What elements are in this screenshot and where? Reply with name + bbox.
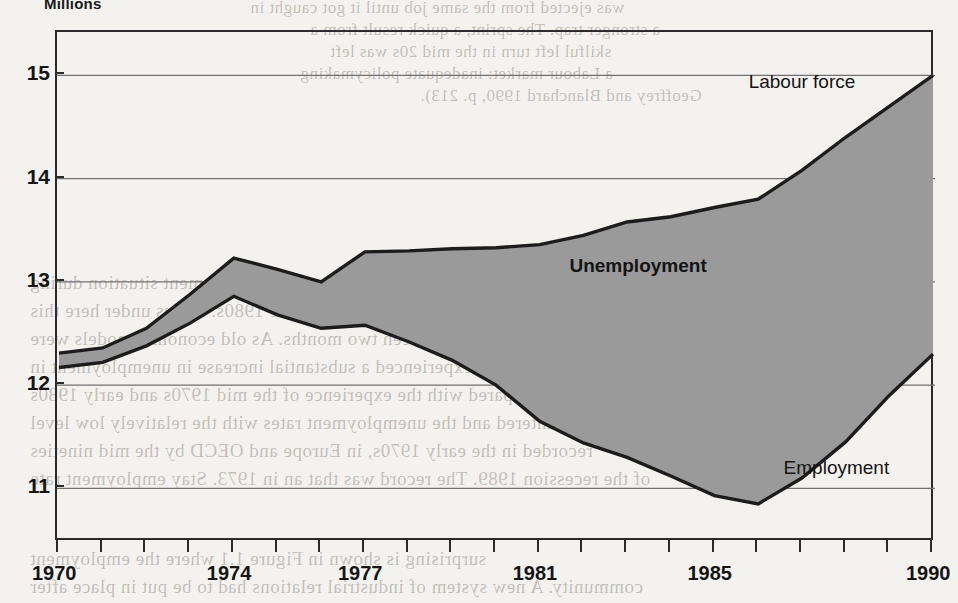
y-tick-mark xyxy=(55,279,64,281)
series-label-unemployment: Unemployment xyxy=(569,256,706,275)
series-label-employment: Employment xyxy=(784,458,890,477)
y-tick-mark xyxy=(55,485,64,487)
x-tick-label: 1970 xyxy=(32,563,77,583)
x-tick-mark xyxy=(930,540,932,552)
x-tick-mark xyxy=(799,540,801,552)
y-tick-label: 12 xyxy=(6,372,50,393)
x-tick-mark xyxy=(143,540,145,552)
x-tick-mark xyxy=(231,540,233,552)
x-tick-label: 1977 xyxy=(338,563,383,583)
x-tick-mark xyxy=(712,540,714,552)
series-label-labour-force: Labour force xyxy=(749,72,856,91)
y-tick-mark xyxy=(55,382,64,384)
x-tick-mark xyxy=(755,540,757,552)
y-tick-label: 11 xyxy=(6,475,50,496)
x-tick-label: 1985 xyxy=(688,563,733,583)
x-tick-label: 1974 xyxy=(207,563,252,583)
chart-page: was ejected from the same job until it g… xyxy=(0,0,958,603)
x-tick-mark xyxy=(318,540,320,552)
x-tick-label: 1981 xyxy=(513,563,558,583)
x-tick-mark xyxy=(187,540,189,552)
x-tick-mark xyxy=(449,540,451,552)
y-tick-label: 13 xyxy=(6,269,50,290)
y-tick-mark xyxy=(55,72,64,74)
x-tick-mark xyxy=(580,540,582,552)
y-tick-label: 14 xyxy=(6,166,50,187)
ghost-line: surprising is shown in Figure 1.1 where … xyxy=(30,548,486,570)
unemployment-band xyxy=(59,75,933,504)
y-axis: 1112131415 xyxy=(0,0,50,603)
ghost-line: was ejected from the same job until it g… xyxy=(250,0,624,18)
x-tick-mark xyxy=(56,540,58,552)
x-tick-mark xyxy=(275,540,277,552)
x-tick-mark xyxy=(493,540,495,552)
x-tick-mark xyxy=(624,540,626,552)
x-tick-label: 1990 xyxy=(906,563,951,583)
x-tick-mark xyxy=(406,540,408,552)
x-tick-mark xyxy=(843,540,845,552)
y-tick-label: 15 xyxy=(6,62,50,83)
x-tick-mark xyxy=(100,540,102,552)
x-tick-mark xyxy=(537,540,539,552)
y-tick-mark xyxy=(55,176,64,178)
x-tick-mark xyxy=(362,540,364,552)
y-axis-title: Millions xyxy=(44,0,101,12)
x-tick-mark xyxy=(886,540,888,552)
unemployment-area xyxy=(59,75,933,504)
x-tick-mark xyxy=(668,540,670,552)
